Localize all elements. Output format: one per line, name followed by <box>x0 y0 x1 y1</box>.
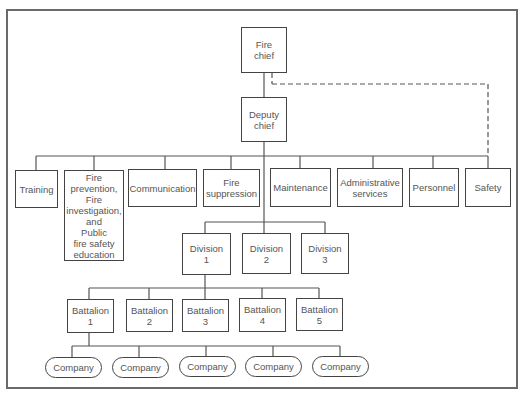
division-3-box: Division 3 <box>301 233 349 274</box>
company-2-box-label: Company <box>120 362 161 373</box>
communication-box: Communication <box>128 169 197 207</box>
fire-prevention-box: Fire prevention, Fire investigation, and… <box>64 170 124 261</box>
company-3-box-label: Company <box>187 361 228 372</box>
deputy-chief-box: Deputy chief <box>241 97 287 142</box>
division-2-box: Division 2 <box>242 233 291 274</box>
deputy-chief-box-label: Deputy chief <box>249 109 279 131</box>
battalion-5-box: Battalion 5 <box>296 298 343 331</box>
communication-box-label: Communication <box>130 183 196 194</box>
training-box: Training <box>15 170 58 208</box>
battalion-4-box: Battalion 4 <box>239 298 286 332</box>
battalion-5-box-label: Battalion 5 <box>301 304 338 326</box>
battalion-2-box: Battalion 2 <box>126 299 173 332</box>
maintenance-box-label: Maintenance <box>273 182 327 193</box>
personnel-box: Personnel <box>409 168 459 207</box>
battalion-3-box: Battalion 3 <box>182 299 229 332</box>
personnel-box-label: Personnel <box>413 182 456 193</box>
battalion-2-box-label: Battalion 2 <box>131 305 168 327</box>
company-3-box: Company <box>179 356 236 377</box>
fire-suppression-box: Fire suppression <box>203 169 260 207</box>
fire-suppression-box-label: Fire suppression <box>206 177 257 199</box>
maintenance-box: Maintenance <box>270 168 331 207</box>
battalion-1-box-label: Battalion 1 <box>72 305 109 327</box>
company-1-box-label: Company <box>53 362 94 373</box>
division-1-box-label: Division 1 <box>190 243 223 265</box>
division-3-box-label: Division 3 <box>308 243 341 265</box>
company-5-box-label: Company <box>320 361 361 372</box>
battalion-3-box-label: Battalion 3 <box>187 305 224 327</box>
training-box-label: Training <box>20 184 54 195</box>
company-5-box: Company <box>312 356 369 377</box>
company-1-box: Company <box>45 357 102 378</box>
company-4-box: Company <box>245 356 302 377</box>
administrative-services-box: Administrative services <box>337 168 403 207</box>
company-4-box-label: Company <box>253 361 294 372</box>
fire-chief-box: Fire chief <box>241 27 287 73</box>
fire-chief-box-label: Fire chief <box>254 39 274 61</box>
division-2-box-label: Division 2 <box>250 243 283 265</box>
battalion-4-box-label: Battalion 4 <box>244 304 281 326</box>
company-2-box: Company <box>112 357 169 378</box>
fire-prevention-box-label: Fire prevention, Fire investigation, and… <box>66 172 121 260</box>
administrative-services-box-label: Administrative services <box>340 177 400 199</box>
battalion-1-box: Battalion 1 <box>67 299 114 333</box>
safety-box: Safety <box>465 168 511 207</box>
division-1-box: Division 1 <box>182 233 231 275</box>
safety-box-label: Safety <box>475 182 502 193</box>
